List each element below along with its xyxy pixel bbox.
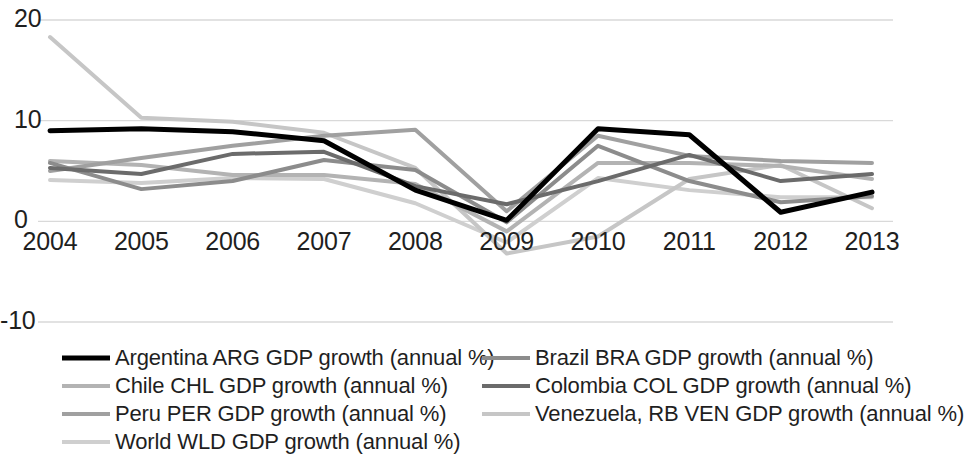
legend-item-label: Brazil BRA GDP growth (annual %): [535, 346, 873, 370]
chart-canvas: [0, 0, 898, 340]
x-axis-label: 2007: [278, 229, 370, 254]
y-axis-label: 10: [14, 107, 41, 132]
y-axis-label: 20: [14, 6, 41, 31]
legend-item[interactable]: Brazil BRA GDP growth (annual %): [482, 344, 873, 371]
legend-item-label: Venezuela, RB VEN GDP growth (annual %): [535, 402, 964, 426]
x-axis-label: 2004: [4, 229, 96, 254]
legend-item[interactable]: Colombia COL GDP growth (annual %): [482, 372, 911, 399]
x-axis-label: 2013: [826, 229, 918, 254]
gridlines: [38, 20, 893, 322]
plot-area: 20100-10 2004200520062007200820092010201…: [0, 0, 898, 340]
series-line: [50, 129, 872, 221]
y-axis-label: -10: [0, 308, 36, 333]
x-axis-label: 2005: [95, 229, 187, 254]
legend-item[interactable]: Peru PER GDP growth (annual %): [62, 400, 446, 427]
x-axis-label: 2008: [369, 229, 461, 254]
legend-item[interactable]: Venezuela, RB VEN GDP growth (annual %): [482, 400, 964, 427]
legend-item[interactable]: World WLD GDP growth (annual %): [62, 428, 460, 455]
x-axis-label: 2006: [187, 229, 279, 254]
legend-item[interactable]: Chile CHL GDP growth (annual %): [62, 372, 448, 399]
chart-legend: Argentina ARG GDP growth (annual %)Brazi…: [62, 344, 898, 456]
x-axis-label: 2011: [643, 229, 735, 254]
x-axis-label: 2012: [735, 229, 827, 254]
legend-item-label: Chile CHL GDP growth (annual %): [115, 374, 448, 398]
legend-item-label: Colombia COL GDP growth (annual %): [535, 374, 911, 398]
legend-item-label: Argentina ARG GDP growth (annual %): [115, 346, 495, 370]
legend-item[interactable]: Argentina ARG GDP growth (annual %): [62, 344, 495, 371]
legend-item-label: World WLD GDP growth (annual %): [115, 430, 460, 454]
x-axis-label: 2010: [552, 229, 644, 254]
x-axis-label: 2009: [461, 229, 553, 254]
legend-item-label: Peru PER GDP growth (annual %): [115, 402, 446, 426]
